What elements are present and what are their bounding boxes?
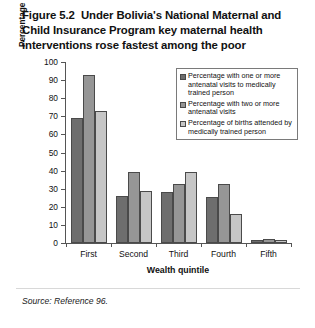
y-axis-tick-label: 30 [49, 185, 58, 193]
legend-item: Percentage of births attended by medical… [180, 119, 294, 136]
x-axis-tick-mark [201, 243, 202, 247]
bar [83, 75, 95, 243]
y-axis-tick-label: 20 [49, 203, 58, 211]
x-axis-tick-label: First [66, 249, 111, 259]
legend-swatch-icon [180, 121, 186, 127]
y-axis-tick-label: 10 [49, 221, 58, 229]
legend-swatch-icon [180, 74, 186, 80]
legend-item: Percentage with one or more antenatal vi… [180, 72, 294, 98]
y-axis-tick-label: 60 [49, 130, 58, 138]
x-axis-tick-mark [156, 243, 157, 247]
x-axis-tick-label: Fourth [201, 249, 246, 259]
bar [161, 192, 173, 243]
figure-title-line-3: interventions rose fastest among the poo… [22, 38, 300, 53]
bar [263, 239, 275, 243]
bar [71, 118, 83, 243]
bar-group [66, 62, 111, 243]
bar [128, 172, 140, 243]
source-note: Source: Reference 96. [22, 296, 108, 306]
footer-divider [16, 288, 300, 289]
x-axis-tick-label: Fifth [246, 249, 291, 259]
x-axis-tick-labels: FirstSecondThirdFourthFifth [66, 249, 291, 263]
y-axis-tick-label: 80 [49, 94, 58, 102]
y-axis-tick-labels: 0102030405060708090100 [35, 62, 61, 243]
y-axis-title: Percentage increase 1994–98 [16, 0, 29, 88]
legend-item-label: Percentage with two or more antenatal vi… [188, 100, 294, 117]
bar [95, 111, 107, 243]
figure-title: Figure 5.2 Under Bolivia's National Mate… [22, 8, 300, 54]
x-axis-tick-mark [291, 243, 292, 247]
bar [173, 184, 185, 243]
y-axis-tick-label: 90 [49, 76, 58, 84]
figure-container: Figure 5.2 Under Bolivia's National Mate… [0, 0, 315, 328]
legend-item-label: Percentage of births attended by medical… [188, 119, 294, 136]
x-axis-tick-mark [111, 243, 112, 247]
bar [251, 240, 263, 243]
y-axis-tick-label: 40 [49, 167, 58, 175]
bar [185, 172, 197, 243]
y-axis-tick-label: 50 [49, 149, 58, 157]
legend-item-label: Percentage with one or more antenatal vi… [188, 72, 294, 98]
y-axis-tick-label: 70 [49, 112, 58, 120]
x-axis-tick-mark [246, 243, 247, 247]
figure-title-line-1: Figure 5.2 Under Bolivia's National Mate… [22, 8, 300, 23]
x-axis-line [65, 243, 291, 244]
legend-swatch-icon [180, 102, 186, 108]
bar [140, 191, 152, 243]
x-axis-tick-mark [66, 243, 67, 247]
x-axis-tick-label: Third [156, 249, 201, 259]
bar [116, 196, 128, 243]
y-axis-tick-label: 0 [53, 239, 58, 247]
figure-title-line-2: Child Insurance Program key maternal hea… [22, 23, 300, 38]
bar [218, 184, 230, 243]
bar-group [111, 62, 156, 243]
y-axis-tick-label: 100 [44, 58, 58, 66]
bar [230, 214, 242, 243]
x-axis-title: Wealth quintile [65, 265, 291, 275]
bar [275, 240, 287, 243]
chart-legend: Percentage with one or more antenatal vi… [176, 68, 298, 140]
x-axis-tick-label: Second [111, 249, 156, 259]
legend-item: Percentage with two or more antenatal vi… [180, 100, 294, 117]
bar [206, 197, 218, 243]
